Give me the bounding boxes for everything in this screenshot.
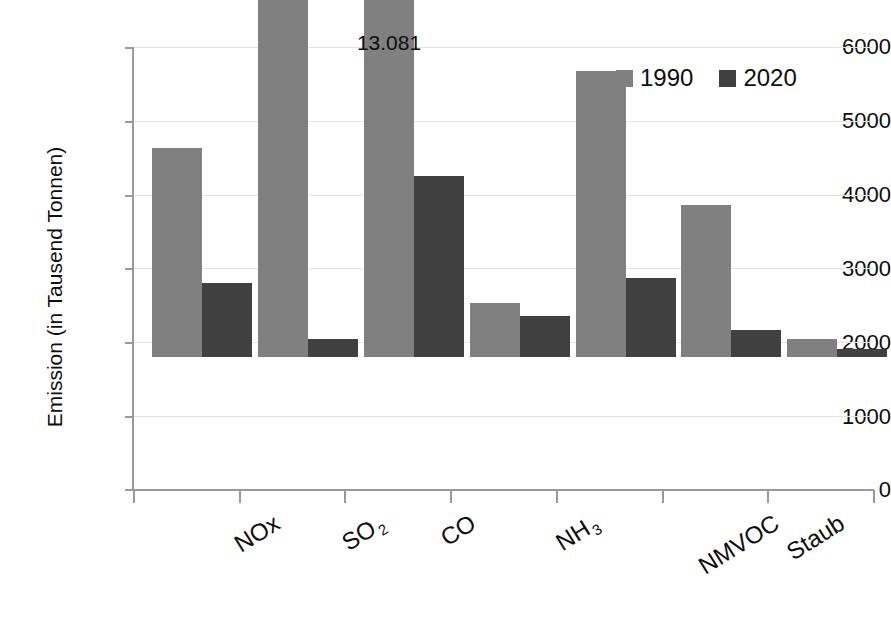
- x-tick-mark-0: [133, 490, 135, 503]
- bar-nox-1990: [152, 148, 202, 357]
- x-cat-label-nmvoc: NMVOC: [694, 509, 785, 580]
- x-cat-label-staub: Staub: [782, 509, 850, 566]
- legend-entry-1990[interactable]: 1990: [616, 66, 693, 90]
- bar-so2-1990: [258, 0, 308, 357]
- legend-label-2020: 2020: [743, 66, 796, 90]
- bar-nmvoc-1990: [576, 71, 626, 357]
- bar-nh3-2020: [520, 316, 570, 357]
- x-tick-mark-1: [239, 490, 241, 503]
- bar-so2-2020: [308, 339, 358, 357]
- legend-label-1990: 1990: [640, 66, 693, 90]
- bar-staub-1990: [681, 205, 731, 357]
- bar-nh3-1990: [470, 303, 520, 358]
- x-tick-mark-6: [767, 490, 769, 503]
- x-cat-label-nox: NOx: [229, 509, 285, 558]
- x-tick-mark-5: [662, 490, 664, 503]
- bar-nox-2020: [202, 283, 252, 357]
- x-cat-label-so2: SO2: [337, 509, 390, 557]
- x-tick-mark-4: [556, 490, 558, 503]
- bar-staub-2020: [731, 330, 781, 357]
- co-1990-value-label: 13.081: [334, 31, 444, 55]
- bar-feinstaub-2020: [837, 349, 887, 357]
- x-tick-mark-7: [873, 490, 875, 503]
- legend: 1990 2020: [616, 66, 797, 90]
- legend-swatch-2020-icon: [719, 70, 736, 87]
- legend-swatch-1990-icon: [616, 70, 633, 87]
- bar-chart: Emission (in Tausend Tonnen) 6000 5000 4…: [0, 0, 891, 622]
- x-tick-mark-2: [344, 490, 346, 503]
- legend-entry-2020[interactable]: 2020: [719, 66, 796, 90]
- bar-nmvoc-2020: [626, 278, 676, 357]
- x-cat-label-nh3: NH3: [551, 509, 604, 557]
- x-tick-mark-3: [450, 490, 452, 503]
- bar-co-2020: [414, 176, 464, 357]
- bar-feinstaub-1990: [787, 339, 837, 357]
- x-cat-label-co: CO: [435, 509, 480, 552]
